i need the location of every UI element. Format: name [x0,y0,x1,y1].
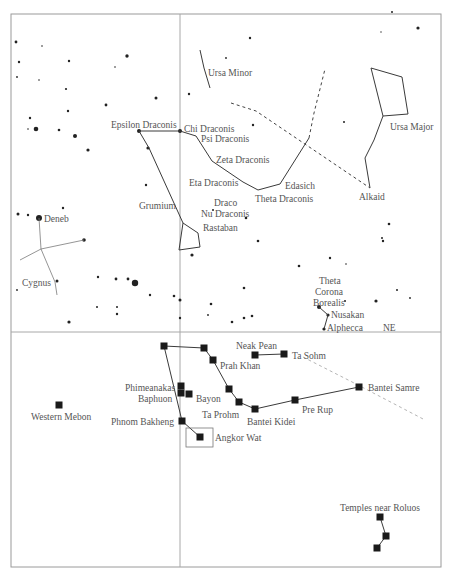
star-dot [345,263,347,265]
star-dot [86,148,89,151]
star-dot [155,97,158,100]
temple-marker [236,399,243,406]
star-dot [396,289,398,291]
constellation-lines [20,50,408,329]
temple-marker [356,384,363,391]
star-dot [381,237,383,239]
star-label: Alkaid [359,192,385,202]
star-label: Deneb [44,214,69,224]
star-label: Eta Draconis [189,178,239,188]
star-dot [388,223,391,226]
temple-label: Phnom Bakheng [111,417,174,427]
star-label: Zeta Draconis [216,155,270,165]
constellation-label: Ursa Major [390,122,434,132]
temple-marker [178,390,185,397]
star-dot [132,280,138,286]
star-dot [225,57,227,59]
star-dot [41,45,43,47]
star-dot [252,124,254,126]
temple-label: Baphuon [138,394,173,404]
temple-label: Temples near Roluos [340,503,420,513]
star-dot [127,278,130,281]
star-field [15,11,420,331]
star-dot [116,306,118,308]
star-dot [329,257,331,259]
temple-marker [226,386,233,393]
star-dot [56,280,59,283]
temple-label: Ta Sohm [292,351,327,361]
constellation-label: Corona [315,287,344,297]
temple-label: Ta Prohm [202,410,240,420]
constellation-label: Cygnus [22,278,51,288]
star-dot [114,66,116,68]
star-dot [207,314,209,316]
constellation-line [365,116,383,188]
frame-border [11,14,441,567]
temple-marker [201,345,208,352]
star-dot [173,295,176,298]
temple-marker [179,418,186,425]
star-dot [58,129,61,132]
star-dot [382,240,384,242]
star-dot [251,315,254,318]
star-label: Edasich [285,181,315,191]
star-label: Rastaban [203,223,238,233]
star-dot [16,76,18,78]
star-dot [249,37,251,39]
star-dot [34,127,39,132]
star-dot [27,128,29,130]
star-label: Psi Draconis [201,134,250,144]
star-label: Alphecca [327,323,364,333]
temple-label: Bantei Samre [368,383,419,393]
temple-marker [56,402,63,409]
constellation-line [41,249,57,295]
temple-label: Prah Khan [220,361,261,371]
star-dot [243,317,246,320]
temple-line [164,346,359,409]
constellation-label: Draco [214,198,237,208]
star-dot [62,207,64,209]
star-dot [380,31,381,32]
temple-marker [161,343,168,350]
temple-label: Pre Rup [302,405,333,415]
star-dot [17,213,20,216]
star-dot [29,117,31,119]
temple-marker [252,406,259,413]
temple-marker [197,434,204,441]
star-dot [243,287,246,290]
star-label: Theta Draconis [255,194,314,204]
star-dot [27,214,29,216]
star-dot [38,79,40,81]
star-dot [298,265,301,268]
star-dot [125,54,128,57]
star-dot [97,276,99,278]
temple-label: Bayon [196,394,221,404]
star-dot [210,303,213,306]
map-labels: Ursa MinorUrsa MajorDracoCygnusThetaCoro… [22,68,434,513]
constellation-label: Borealis [313,298,345,308]
temple-label: Western Mebon [31,412,91,422]
constellation-label: Theta [319,276,341,286]
star-dot [105,104,108,107]
star-dot [188,93,190,95]
temple-label: Angkor Wat [215,433,262,443]
star-dot [116,313,118,315]
star-dot [73,134,77,138]
star-dot [374,299,377,302]
temple-marker [377,514,384,521]
star-dot [145,184,147,186]
constellation-label: Ursa Minor [208,68,253,78]
temple-marker [292,397,299,404]
constellation-line [371,68,408,116]
star-label: Nu Draconis [201,209,250,219]
star-dot [149,294,151,296]
star-label: NE [383,323,396,333]
star-label: Grumium [139,201,177,211]
star-dot [67,110,69,112]
star-dot [231,321,234,324]
temple-marker [252,352,259,359]
temple-marker [210,357,217,364]
constellation-line [20,249,41,260]
star-dot [343,121,345,123]
temple-label: Phimeanakas [125,383,175,393]
